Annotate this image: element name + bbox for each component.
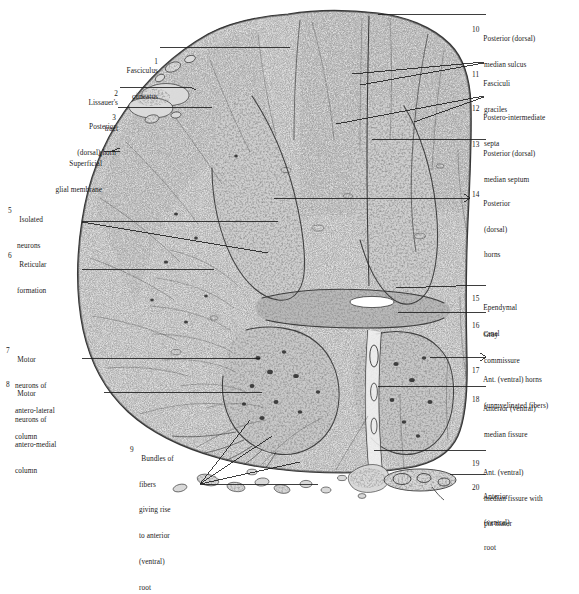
label-20-number: 20 <box>472 483 479 492</box>
label-12-line1: Postero-intermediate <box>483 113 545 122</box>
label-16-number: 16 <box>472 321 479 330</box>
label-9-line3: giving rise <box>130 506 200 515</box>
label-10-number: 10 <box>472 25 479 34</box>
label-9-line6: root <box>130 584 200 593</box>
label-14-number: 14 <box>472 190 479 199</box>
label-17-number: 17 <box>472 366 479 375</box>
label-9-line2: fibers <box>130 481 200 490</box>
label-8-line4: column <box>6 467 98 476</box>
label-8-line2: neurons of <box>6 416 98 425</box>
label-6: 6 Reticular formation <box>0 235 86 312</box>
label-7-number: 7 <box>6 346 10 355</box>
label-20: 20 Anterior (ventral) root <box>472 467 510 570</box>
label-16-line1: Gray <box>483 330 498 339</box>
label-5-line1: Isolated <box>19 215 43 224</box>
label-14-line1: Posterior <box>483 199 510 208</box>
label-14: 14 Posterior (dorsal) horns <box>472 174 510 277</box>
label-20-line1: Anterior <box>483 492 508 501</box>
label-20-line2: (ventral) <box>472 519 510 528</box>
label-14-line2: (dorsal) <box>472 226 510 235</box>
label-5-number: 5 <box>8 206 12 215</box>
label-13-number: 13 <box>472 140 479 149</box>
label-11-line1: Fasciculi <box>483 79 510 88</box>
label-20-line3: root <box>472 544 510 553</box>
label-8: 8 Motor neurons of antero-medial column <box>0 364 98 493</box>
label-14-line3: horns <box>472 251 510 260</box>
label-13-line1: Posterior (dorsal) <box>483 149 535 158</box>
label-18-line2: median fissure <box>472 431 536 440</box>
label-10-line1: Posterior (dorsal) <box>483 34 535 43</box>
label-9-number: 9 <box>130 445 134 454</box>
label-6-line1: Reticular <box>19 260 46 269</box>
anterior-ventral-root <box>384 469 456 500</box>
label-18-line1: Anterior (ventral) <box>483 404 536 413</box>
label-9-line1: Bundles of <box>141 454 173 463</box>
label-6-line2: formation <box>8 287 86 296</box>
label-12-number: 12 <box>472 104 479 113</box>
label-9: 9 Bundles of fibers giving rise to anter… <box>130 429 200 594</box>
label-15-number: 15 <box>472 294 479 303</box>
label-8-line1: Motor <box>17 389 36 398</box>
label-9-line4: to anterior <box>130 532 200 541</box>
label-3-line1: Posterior <box>89 122 116 131</box>
label-7-line1: Motor <box>17 355 36 364</box>
label-8-number: 8 <box>6 380 10 389</box>
label-9-line5: (ventral) <box>130 558 200 567</box>
label-8-line3: antero-medial <box>6 441 98 450</box>
label-6-number: 6 <box>8 251 12 260</box>
label-11-number: 11 <box>472 70 479 79</box>
label-1-line1: Fasciculus <box>127 66 158 75</box>
label-4-line1: Superficial <box>69 159 102 168</box>
ependymal-canal <box>350 296 394 307</box>
label-18-number: 18 <box>472 395 479 404</box>
